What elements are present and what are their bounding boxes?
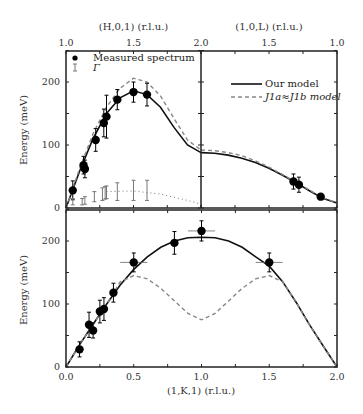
top-tick-4: 1.5 bbox=[261, 37, 276, 48]
legend-our-model-label: Our model bbox=[265, 78, 319, 89]
bottom-axis-title: (1,K,1) (r.l.u.) bbox=[167, 385, 235, 396]
gamma-errorbar bbox=[100, 188, 104, 201]
upper-y-tick-200: 200 bbox=[42, 76, 60, 87]
bottom-tick-3: 1.0 bbox=[193, 371, 208, 382]
data-point bbox=[120, 253, 147, 272]
lower-y-axis-title: Energy (meV) bbox=[18, 255, 29, 325]
data-point bbox=[129, 82, 137, 102]
bottom-tick-1: 0.0 bbox=[58, 371, 73, 382]
figure: 1.0 1.5 2.0 1.5 1.0 (H,0,1) (r.l.u.) (1,… bbox=[0, 0, 363, 414]
top-tick-5: 1.0 bbox=[329, 37, 344, 48]
legend-gamma-errorbar-icon bbox=[73, 64, 77, 71]
legend-gamma-label: Γ bbox=[92, 62, 101, 73]
data-point bbox=[100, 298, 108, 321]
top-tick-1: 1.0 bbox=[58, 37, 73, 48]
gamma-errorbar bbox=[132, 180, 136, 200]
lower-y-tick-100: 100 bbox=[42, 298, 60, 309]
gamma-errorbar bbox=[83, 197, 87, 205]
gamma-errorbar bbox=[92, 192, 96, 202]
bottom-tick-4: 1.5 bbox=[261, 371, 276, 382]
upper-left-panel bbox=[66, 78, 201, 208]
top-right-axis-title: (1,0,L) (r.l.u.) bbox=[235, 21, 302, 32]
top-tick-2: 1.5 bbox=[126, 37, 141, 48]
upper-right-panel bbox=[201, 150, 337, 203]
legend-alt-model-label: J1a≈J1b model bbox=[263, 91, 341, 102]
legend-measured-marker-icon bbox=[72, 55, 77, 60]
data-point bbox=[92, 129, 100, 152]
data-point bbox=[143, 83, 151, 106]
data-point bbox=[75, 342, 83, 357]
bottom-tick-5: 2.0 bbox=[329, 371, 344, 382]
data-point bbox=[256, 253, 283, 272]
gamma-errorbar bbox=[145, 180, 149, 200]
j1a-j1b-model-curve bbox=[66, 276, 337, 367]
lower-y-tick-200: 200 bbox=[42, 235, 60, 246]
bottom-tick-2: 0.5 bbox=[126, 371, 141, 382]
top-left-axis-title: (H,0,1) (r.l.u.) bbox=[99, 21, 169, 32]
data-point bbox=[170, 232, 178, 255]
upper-y-tick-100: 100 bbox=[42, 139, 60, 150]
our-model-curve bbox=[66, 237, 337, 367]
our-model-curve bbox=[201, 153, 337, 203]
lower-panel bbox=[66, 221, 337, 367]
top-tick-3: 2.0 bbox=[193, 37, 208, 48]
upper-y-tick-0: 0 bbox=[54, 202, 60, 213]
data-point bbox=[113, 90, 121, 110]
data-point bbox=[316, 192, 324, 200]
upper-y-axis-title: Energy (meV) bbox=[18, 95, 29, 165]
-trend-curve bbox=[107, 191, 202, 204]
legend-measured-label: Measured spectrum bbox=[93, 52, 195, 63]
